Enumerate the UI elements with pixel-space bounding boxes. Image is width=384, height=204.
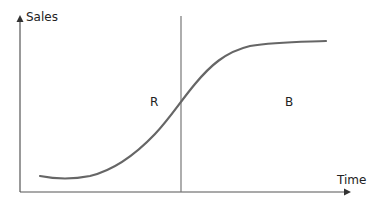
- x-axis-arrow-icon: [344, 189, 351, 196]
- diagram-canvas: [0, 0, 384, 204]
- s-curve: [40, 41, 326, 179]
- region-label-b: B: [285, 96, 293, 108]
- y-axis-label: Sales: [26, 11, 58, 23]
- x-axis-label: Time: [337, 174, 366, 186]
- y-axis-arrow-icon: [17, 15, 24, 22]
- region-label-r: R: [150, 96, 158, 108]
